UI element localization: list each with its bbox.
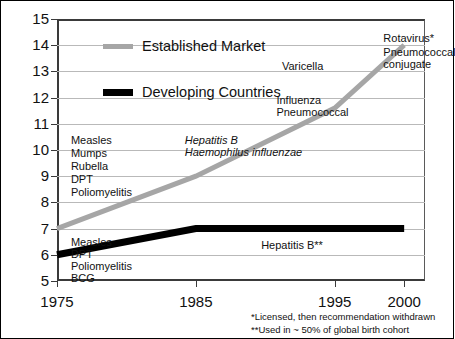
x-axis-tick-label: 1995 <box>300 294 370 309</box>
legend-item-established-market: Established Market <box>103 39 265 54</box>
x-axis-tick-label: 1985 <box>161 294 231 309</box>
legend-swatch-developing-countries <box>103 89 133 96</box>
annotation-label: Poliomyelitis <box>71 186 132 200</box>
legend-swatch-established-market <box>103 44 133 49</box>
x-axis-tick-label: 2000 <box>369 294 439 309</box>
legend-item-developing-countries: Developing Countries <box>103 85 281 100</box>
plot-area: 56789101112131415 1975198519952000 Measl… <box>57 19 425 281</box>
y-axis-tick-label: 5 <box>17 273 49 288</box>
y-axis-tick-label: 6 <box>17 247 49 262</box>
x-axis-tick <box>196 281 197 287</box>
annotation-label: Rotavirus* <box>383 32 434 46</box>
x-axis-tick <box>404 281 405 287</box>
annotation-label: Influenza <box>276 94 321 108</box>
y-axis-tick-label: 7 <box>17 221 49 236</box>
y-axis-tick-label: 8 <box>17 194 49 209</box>
legend-label-established-market: Established Market <box>142 39 265 54</box>
x-axis-tick-label: 1975 <box>22 294 92 309</box>
annotation-label: Pneumococcal <box>276 106 348 120</box>
annotation-label: BCG <box>71 272 95 286</box>
x-axis-tick <box>335 281 336 287</box>
y-axis-tick-label: 14 <box>17 37 49 52</box>
x-axis-tick <box>57 281 58 287</box>
y-axis-tick-label: 15 <box>17 11 49 26</box>
y-axis-tick-label: 10 <box>17 142 49 157</box>
annotation-label: Measles <box>71 134 112 148</box>
y-axis-tick-label: 9 <box>17 168 49 183</box>
footnote-asterisk: *Licensed, then recommendation withdrawn <box>251 311 435 323</box>
annotation-label: conjugate <box>383 58 431 72</box>
annotation-label: Pneumococcal <box>383 46 455 60</box>
y-axis-tick-label: 12 <box>17 90 49 105</box>
annotation-label: Haemophilus influenzae <box>185 146 302 160</box>
y-axis-tick-label: 11 <box>17 116 49 131</box>
y-axis-tick-label: 13 <box>17 63 49 78</box>
annotation-label: DPT <box>71 173 93 187</box>
annotation-label: Mumps <box>71 147 107 161</box>
annotation-label: Varicella <box>282 60 323 74</box>
legend-label-developing-countries: Developing Countries <box>142 85 281 100</box>
annotation-label: Hepatitis B** <box>261 239 323 253</box>
annotation-label: Rubella <box>71 160 108 174</box>
footnote-double-asterisk: **Used in ~ 50% of global birth cohort <box>251 324 409 336</box>
